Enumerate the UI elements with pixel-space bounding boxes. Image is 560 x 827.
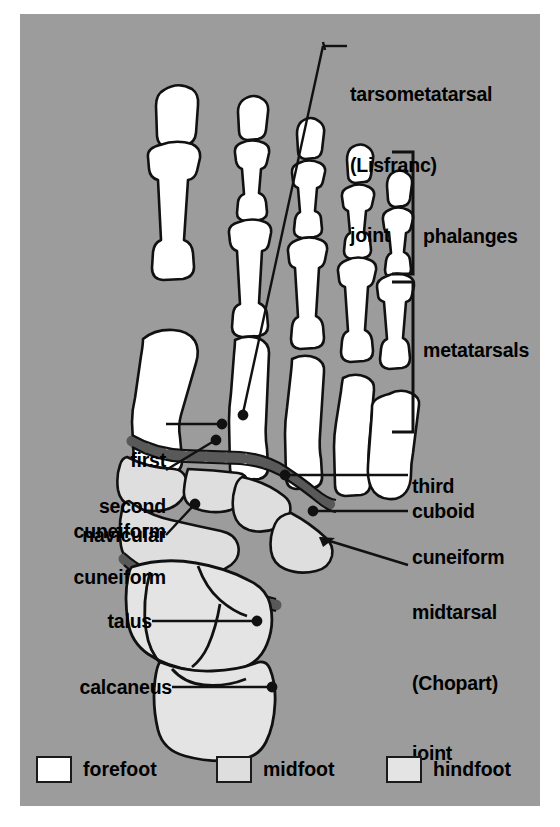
label-second-cuneiform-line2: cuneiform — [20, 566, 166, 590]
label-third-cuneiform-line1: third — [412, 475, 504, 499]
leader-dot-cuboid — [309, 507, 317, 515]
leader-dot-tarsometatarsal — [239, 411, 247, 419]
label-second-cuneiform-line1: second — [20, 495, 166, 519]
label-tarsometatarsal-joint: tarsometatarsal (Lisfranc) joint — [350, 36, 492, 295]
legend-item-forefoot: forefoot — [36, 756, 157, 783]
bone-toe3-distal — [297, 118, 324, 159]
legend-swatch-hindfoot — [386, 756, 422, 783]
bone-toe3-proximal — [288, 238, 327, 350]
label-cuboid: cuboid — [412, 500, 475, 524]
leader-dot-talus — [253, 617, 261, 625]
leader-dot-third-cuneiform — [281, 471, 289, 479]
label-phalanges: phalanges — [423, 225, 518, 249]
label-metatarsals: metatarsals — [423, 339, 529, 363]
legend: forefoot midfoot hindfoot — [20, 745, 540, 793]
leader-dot-first-cuneiform — [218, 420, 226, 428]
legend-swatch-forefoot — [36, 756, 72, 783]
bone-hallux-distal — [156, 85, 198, 147]
figure-panel: tarsometatarsal (Lisfranc) joint phalang… — [20, 14, 540, 806]
legend-label-midfoot: midfoot — [263, 758, 334, 781]
bone-toe2-distal — [238, 96, 268, 140]
label-midtarsal-line2: (Chopart) — [412, 672, 498, 696]
leader-dot-navicular — [191, 500, 199, 508]
legend-item-hindfoot: hindfoot — [386, 756, 511, 783]
label-tarsometatarsal-line2: (Lisfranc) — [350, 154, 492, 178]
bone-toe2-middle — [235, 141, 269, 222]
legend-label-forefoot: forefoot — [83, 758, 157, 781]
legend-item-midfoot: midfoot — [216, 756, 334, 783]
legend-label-hindfoot: hindfoot — [433, 758, 511, 781]
bone-toe3-middle — [292, 161, 325, 239]
label-tarsometatarsal-line1: tarsometatarsal — [350, 83, 492, 107]
label-navicular: navicular — [20, 524, 166, 548]
label-calcaneus: calcaneus — [20, 676, 172, 700]
label-talus: talus — [20, 610, 152, 634]
leader-dot-second-cuneiform — [212, 436, 220, 444]
bone-hallux-proximal — [148, 142, 200, 280]
anatomical-figure: tarsometatarsal (Lisfranc) joint phalang… — [0, 0, 560, 827]
label-midtarsal-line1: midtarsal — [412, 601, 498, 625]
leader-dot-calcaneus — [268, 683, 276, 691]
bone-toe2-proximal — [229, 220, 271, 338]
legend-swatch-midfoot — [216, 756, 252, 783]
